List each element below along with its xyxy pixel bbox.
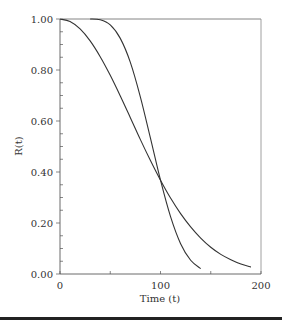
y-tick-label: 1.00 — [31, 14, 53, 25]
bottom-rule — [0, 317, 282, 320]
series-line — [90, 19, 201, 269]
x-tick-label: 200 — [251, 280, 270, 291]
y-tick-label: 0.80 — [31, 65, 53, 76]
y-tick-label: 0.40 — [31, 167, 53, 178]
x-tick-label: 100 — [151, 280, 170, 291]
x-tick-label: 0 — [57, 280, 63, 291]
y-ticks: 0.000.200.400.600.801.00 — [31, 14, 63, 280]
plot-frame — [60, 19, 261, 274]
y-tick-label: 0.00 — [31, 269, 53, 280]
y-tick-label: 0.60 — [31, 116, 53, 127]
y-axis-label: R(t) — [13, 136, 24, 155]
x-axis-label: Time (t) — [140, 293, 180, 304]
reliability-chart: 0.000.200.400.600.801.00 0100200 Time (t… — [0, 0, 282, 327]
series-line — [60, 19, 251, 267]
data-series — [60, 19, 251, 269]
y-tick-label: 0.20 — [31, 218, 53, 229]
